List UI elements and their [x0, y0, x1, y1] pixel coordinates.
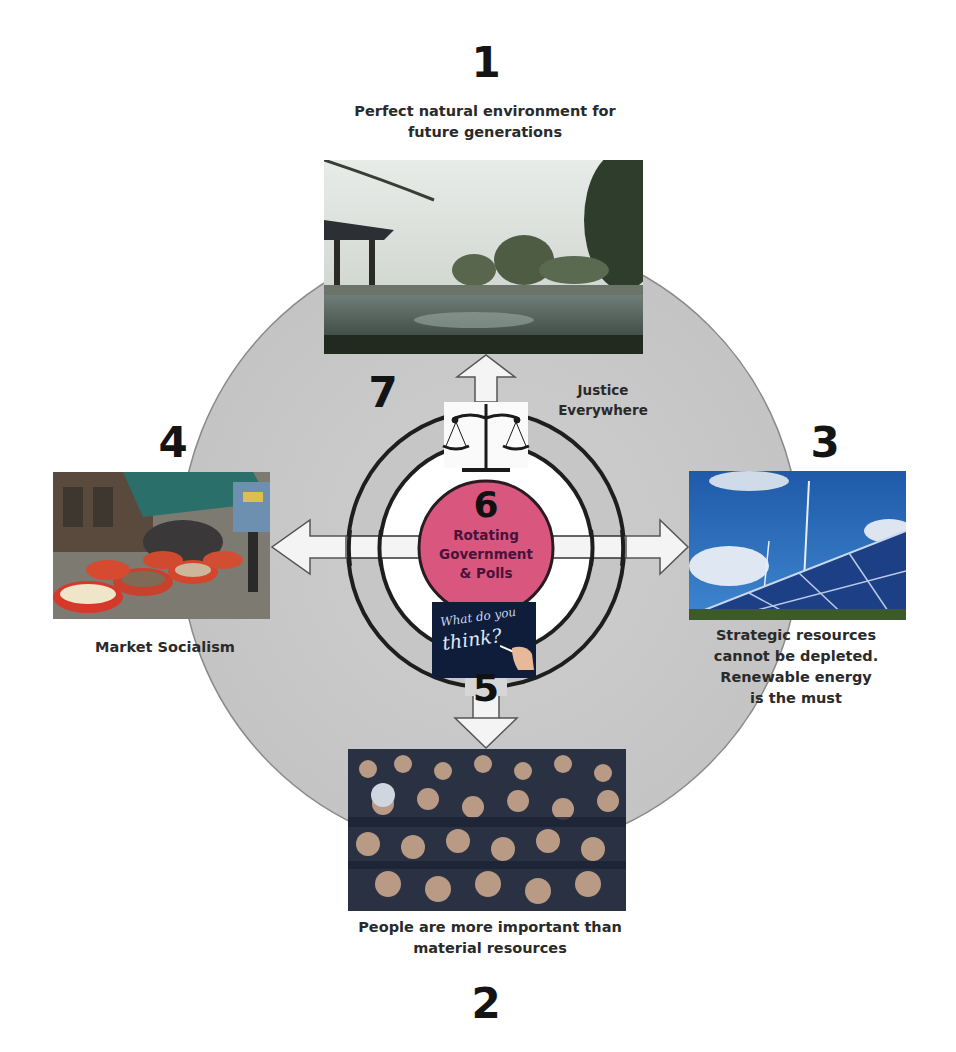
- node-3-number: 3: [800, 422, 850, 464]
- market-photo: [53, 472, 270, 619]
- node-2-caption: People are more important than material …: [330, 917, 650, 959]
- node-1-number: 1: [456, 42, 516, 84]
- node-2-number: 2: [456, 983, 516, 1025]
- node-3-caption: Strategic resources cannot be depleted. …: [676, 625, 916, 709]
- hand-with-chalk-icon: [500, 640, 536, 670]
- justice-label: Justice Everywhere: [538, 380, 668, 420]
- node-4-caption: Market Socialism: [80, 637, 250, 658]
- chalkboard-line1: What do you: [439, 605, 517, 629]
- garden-pond-photo: [324, 160, 643, 354]
- node-7-number: 7: [358, 372, 408, 414]
- center-circle-label: Rotating Government & Polls: [416, 526, 556, 583]
- node-5-number: 5: [461, 669, 511, 707]
- node-1-caption: Perfect natural environment for future g…: [300, 101, 670, 143]
- solar-wind-photo: [689, 471, 906, 620]
- node-6-number: 6: [456, 487, 516, 523]
- chalkboard-line2: think?: [441, 624, 503, 654]
- node-4-number: 4: [148, 422, 198, 464]
- crowd-photo: [348, 749, 626, 911]
